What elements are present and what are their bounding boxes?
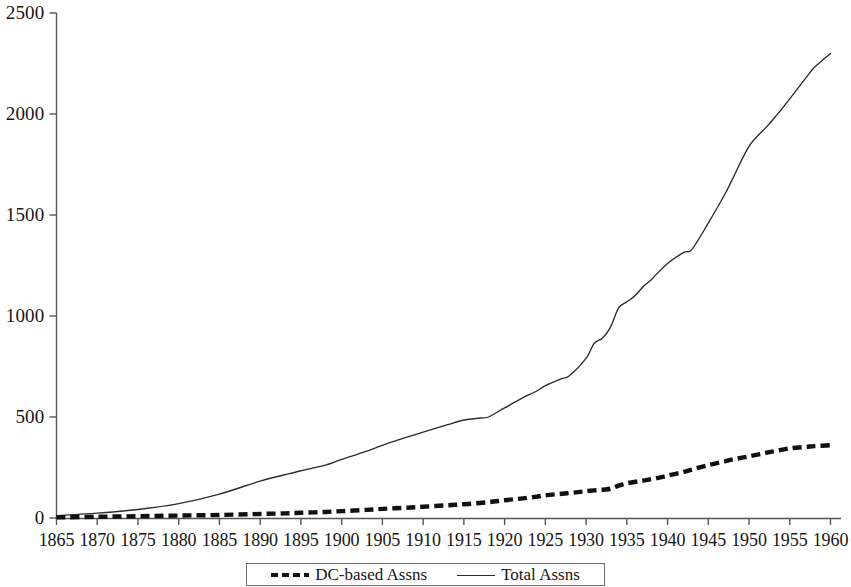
y-axis-tick-label: 1000 bbox=[6, 306, 45, 325]
series-line-dc-based-assns bbox=[57, 445, 831, 517]
legend-label-dc-based-assns: DC-based Assns bbox=[315, 566, 427, 583]
legend-label-total-assns: Total Assns bbox=[501, 566, 580, 583]
chart-figure: 05001000150020002500 1865187018751880188… bbox=[0, 0, 851, 587]
chart-legend: DC-based Assns Total Assns bbox=[246, 563, 605, 586]
series-line-total-assns bbox=[57, 53, 831, 515]
y-axis-tick-label: 2500 bbox=[6, 3, 45, 22]
x-axis-tick-label: 1960 bbox=[806, 531, 851, 549]
legend-entry-dc-based-assns: DC-based Assns bbox=[271, 566, 427, 583]
dashed-line-swatch-icon bbox=[271, 569, 309, 581]
y-axis-tick-label: 500 bbox=[15, 407, 44, 426]
solid-line-swatch-icon bbox=[457, 569, 495, 581]
y-axis-ticks bbox=[50, 13, 57, 518]
legend-entry-total-assns: Total Assns bbox=[457, 566, 580, 583]
y-axis-tick-label: 0 bbox=[35, 508, 45, 527]
y-axis-tick-label: 1500 bbox=[6, 205, 45, 224]
y-axis-tick-label: 2000 bbox=[6, 104, 45, 123]
chart-plot-area bbox=[0, 0, 851, 587]
